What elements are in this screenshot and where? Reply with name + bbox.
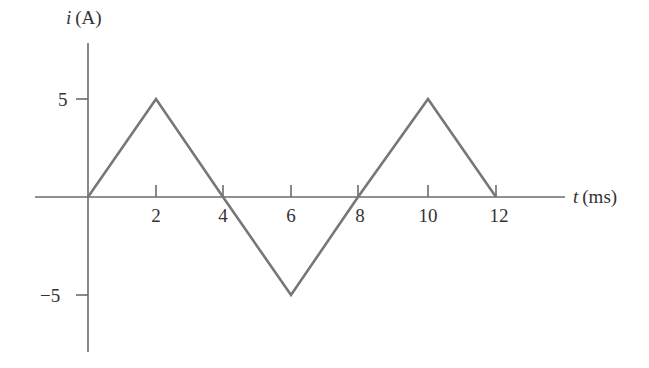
x-tick-label-2: 2: [151, 205, 161, 226]
x-tick-label-4: 4: [218, 205, 228, 226]
x-tick-label-8: 8: [355, 205, 365, 226]
x-tick-label-6: 6: [286, 205, 296, 226]
y-tick-label-5: 5: [58, 89, 68, 110]
triangular-current-chart: i(A) 5 −5 2 4 6 8 10 12 t(ms): [0, 0, 649, 368]
x-axis-label: t(ms): [573, 186, 617, 208]
x-tick-label-12: 12: [490, 205, 509, 226]
y-tick-label-neg5: −5: [40, 285, 60, 306]
y-axis-label: i(A): [66, 7, 102, 29]
x-ticks: [156, 185, 496, 197]
x-tick-label-10: 10: [419, 205, 438, 226]
